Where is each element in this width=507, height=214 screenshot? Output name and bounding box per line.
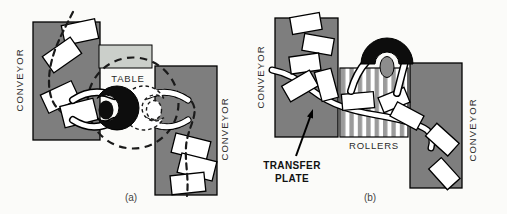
- transfer-plate-label-line2: PLATE: [275, 173, 309, 184]
- worker-a-ghost-head: [147, 101, 162, 120]
- caption-b: (b): [364, 192, 376, 203]
- figure-canvas: CONVEYOR CONVEYOR TABLE: [0, 0, 507, 214]
- worker-a-head: [99, 101, 114, 120]
- table-label: TABLE: [111, 73, 144, 84]
- figure-two-workstation-layouts: CONVEYOR CONVEYOR TABLE: [0, 0, 507, 214]
- box: [341, 92, 374, 111]
- worker-b-head: [380, 57, 394, 78]
- caption-a: (a): [125, 192, 137, 203]
- rollers-label: ROLLERS: [349, 140, 399, 151]
- conveyor-a-left-label: CONVEYOR: [14, 48, 25, 111]
- conveyor-b-left-label: CONVEYOR: [255, 45, 266, 108]
- conveyor-a-right-label: CONVEYOR: [219, 97, 230, 160]
- transfer-plate-label-line1: TRANSFER: [263, 160, 321, 171]
- conveyor-b-right-label: CONVEYOR: [467, 98, 478, 161]
- box: [289, 53, 321, 74]
